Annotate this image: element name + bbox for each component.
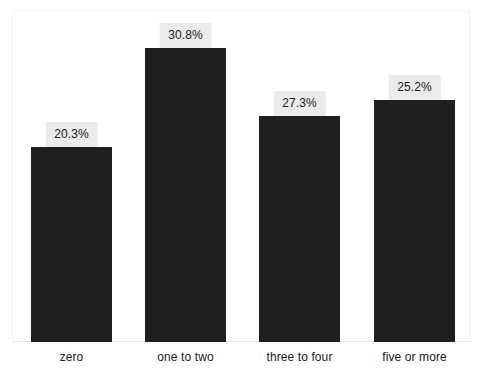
bar-value-label: 20.3%: [45, 122, 98, 147]
bar[interactable]: [31, 147, 112, 342]
bar-value-label: 25.2%: [388, 75, 441, 100]
bar-value-label: 30.8%: [159, 23, 212, 48]
x-axis-tick-label: zero: [31, 350, 112, 365]
bar-group: 25.2%: [374, 100, 455, 342]
bar[interactable]: [145, 48, 226, 342]
bar-chart: 20.3% 30.8% 27.3% 25.2% zero one to two …: [0, 0, 482, 378]
bar[interactable]: [374, 100, 455, 342]
bar-value-label: 27.3%: [273, 91, 326, 116]
x-axis-tick-label: three to four: [259, 350, 340, 365]
bar-group: 27.3%: [259, 116, 340, 342]
bar-group: 20.3%: [31, 147, 112, 342]
x-axis-tick-label: one to two: [145, 350, 226, 365]
bar[interactable]: [259, 116, 340, 342]
bar-group: 30.8%: [145, 48, 226, 342]
x-axis-tick-label: five or more: [374, 350, 455, 365]
